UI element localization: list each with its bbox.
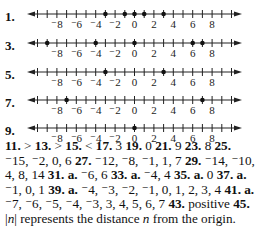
svg-text:⁻4: ⁻4 <box>90 104 102 116</box>
number-line-graph: ⁻8⁻6⁻4⁻202468 <box>0 4 256 30</box>
svg-text:6: 6 <box>190 76 196 88</box>
svg-text:⁻8: ⁻8 <box>51 47 63 59</box>
answer-item: 27. ⁻12, ⁻8, ⁻1, 1, 7 <box>75 153 182 168</box>
answer-item: 39. a. ⁻4, ⁻3, ⁻2, ⁻1, 0, 1, 2, 3, 4 <box>48 182 221 197</box>
arrow-right-icon <box>234 70 242 75</box>
plotted-point <box>103 70 108 75</box>
svg-text:⁻8: ⁻8 <box>51 76 63 88</box>
number-line-graph: ⁻8⁻6⁻4⁻202468 <box>0 33 256 59</box>
answer-item: 11. > <box>5 138 32 153</box>
arrow-left-icon <box>27 126 35 131</box>
arrow-left-icon <box>27 98 35 103</box>
plotted-point <box>142 12 147 17</box>
arrow-right-icon <box>234 126 242 131</box>
number-line-graph: ⁻8⁻6⁻4⁻202468 <box>0 90 256 116</box>
svg-text:6: 6 <box>190 18 196 30</box>
svg-text:⁻6: ⁻6 <box>71 47 83 59</box>
arrow-left-icon <box>27 41 35 46</box>
answer-item: 17. 3 <box>96 138 122 153</box>
svg-text:2: 2 <box>151 18 157 30</box>
arrow-right-icon <box>234 41 242 46</box>
answer-item: 35. a. 0 <box>174 167 214 182</box>
answer-item: 43. positive <box>168 196 230 211</box>
svg-text:6: 6 <box>190 104 196 116</box>
answer-item: 33. a. ⁻4, 4 <box>111 167 171 182</box>
svg-text:0: 0 <box>132 47 138 59</box>
svg-text:⁻4: ⁻4 <box>90 47 102 59</box>
plotted-point <box>132 41 137 46</box>
svg-text:4: 4 <box>171 18 177 30</box>
svg-text:8: 8 <box>209 18 215 30</box>
plotted-point <box>190 41 195 46</box>
svg-text:2: 2 <box>151 47 157 59</box>
plotted-point <box>132 12 137 17</box>
answer-item: 31. a. ⁻6, 6 <box>48 167 108 182</box>
svg-text:8: 8 <box>209 47 215 59</box>
svg-text:⁻6: ⁻6 <box>71 104 83 116</box>
answer-item: 23. 8 <box>185 138 211 153</box>
number-line: 5.⁻8⁻6⁻4⁻202468 <box>0 62 256 88</box>
svg-text:4: 4 <box>171 76 177 88</box>
svg-text:⁻4: ⁻4 <box>90 76 102 88</box>
plotted-point <box>45 41 50 46</box>
svg-text:⁻2: ⁻2 <box>109 76 121 88</box>
svg-text:0: 0 <box>132 104 138 116</box>
plotted-point <box>161 70 166 75</box>
svg-text:8: 8 <box>209 76 215 88</box>
svg-text:⁻8: ⁻8 <box>51 104 63 116</box>
plotted-point <box>103 12 108 17</box>
svg-text:2: 2 <box>151 104 157 116</box>
number-line: 7.⁻8⁻6⁻4⁻202468 <box>0 90 256 116</box>
svg-text:0: 0 <box>132 76 138 88</box>
number-line-graph: ⁻8⁻6⁻4⁻202468 <box>0 62 256 88</box>
answer-item: 21. 9 <box>155 138 181 153</box>
answer-item: 15. < <box>65 138 92 153</box>
svg-text:2: 2 <box>151 76 157 88</box>
answer-item: 19. 0 <box>126 138 152 153</box>
svg-text:6: 6 <box>190 47 196 59</box>
arrow-left-icon <box>27 70 35 75</box>
number-line: 1.⁻8⁻6⁻4⁻202468 <box>0 4 256 30</box>
svg-text:4: 4 <box>171 104 177 116</box>
plotted-point <box>123 12 128 17</box>
svg-text:⁻2: ⁻2 <box>109 104 121 116</box>
plotted-point <box>161 12 166 17</box>
svg-text:⁻4: ⁻4 <box>90 18 102 30</box>
svg-text:0: 0 <box>132 18 138 30</box>
svg-text:⁻8: ⁻8 <box>51 18 63 30</box>
svg-text:⁻2: ⁻2 <box>109 47 121 59</box>
plotted-point <box>200 41 205 46</box>
number-line: 3.⁻8⁻6⁻4⁻202468 <box>0 33 256 59</box>
plotted-point <box>64 98 69 103</box>
svg-text:8: 8 <box>209 104 215 116</box>
svg-text:⁻6: ⁻6 <box>71 18 83 30</box>
arrow-left-icon <box>27 12 35 17</box>
plotted-point <box>132 126 137 131</box>
answer-item: 13. > <box>35 138 62 153</box>
svg-text:4: 4 <box>171 47 177 59</box>
arrow-right-icon <box>234 98 242 103</box>
svg-text:⁻2: ⁻2 <box>109 18 121 30</box>
svg-text:⁻6: ⁻6 <box>71 76 83 88</box>
arrow-right-icon <box>234 12 242 17</box>
plotted-point <box>200 98 205 103</box>
answers-block: 11. > 13. > 15. < 17. 3 19. 0 21. 9 23. … <box>5 139 255 227</box>
plotted-point <box>93 41 98 46</box>
